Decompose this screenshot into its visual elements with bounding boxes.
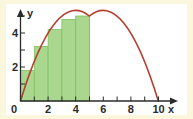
bar-series xyxy=(21,16,90,101)
riemann-sum-chart: 0 2 4 6 8 10 2 4 x y xyxy=(0,0,193,119)
y-tick-label-2: 2 xyxy=(12,61,18,73)
chart-figure: 0 2 4 6 8 10 2 4 x y xyxy=(0,0,193,119)
x-tick-label-8: 8 xyxy=(128,103,134,115)
x-axis-label: x xyxy=(168,103,175,115)
table-row xyxy=(76,16,90,101)
y-axis-label: y xyxy=(27,7,34,19)
x-tick-label-10: 10 xyxy=(152,103,164,115)
y-tick-label-4: 4 xyxy=(12,27,19,39)
x-tick-label-2: 2 xyxy=(45,103,51,115)
x-tick-label-6: 6 xyxy=(100,103,106,115)
table-row xyxy=(62,19,76,101)
x-tick-label-0: 0 xyxy=(11,103,17,115)
x-tick-label-4: 4 xyxy=(73,103,80,115)
table-row xyxy=(48,30,62,101)
